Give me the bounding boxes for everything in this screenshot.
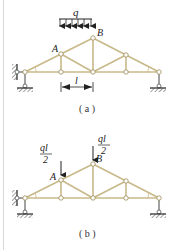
caption-a: ( a ) bbox=[79, 103, 95, 115]
node-label-B: B bbox=[97, 27, 103, 38]
left-support-a bbox=[12, 64, 33, 92]
left-support-b bbox=[12, 190, 33, 218]
figure-a: q bbox=[12, 6, 166, 115]
node-label-A-b: A bbox=[49, 171, 57, 182]
truss-members-b bbox=[25, 164, 159, 198]
truss-diagrams: q bbox=[0, 0, 179, 250]
distributed-load-q bbox=[59, 19, 92, 26]
svg-text:ql: ql bbox=[98, 133, 106, 144]
right-support-b bbox=[150, 198, 166, 218]
svg-text:2: 2 bbox=[43, 154, 48, 165]
node-label-A: A bbox=[51, 43, 59, 54]
truss-nodes-a bbox=[23, 36, 161, 74]
right-support-a bbox=[150, 72, 166, 92]
point-load-label-A: ql 2 bbox=[40, 142, 52, 165]
figure-b: ql 2 ql 2 bbox=[12, 133, 166, 240]
svg-text:ql: ql bbox=[40, 142, 48, 153]
load-label-q: q bbox=[73, 6, 79, 18]
dimension-label-l: l bbox=[75, 75, 78, 86]
caption-b: ( b ) bbox=[79, 228, 96, 240]
node-label-B-b: B bbox=[96, 153, 102, 164]
truss-nodes-b bbox=[23, 162, 161, 200]
truss-members-a bbox=[25, 38, 159, 72]
